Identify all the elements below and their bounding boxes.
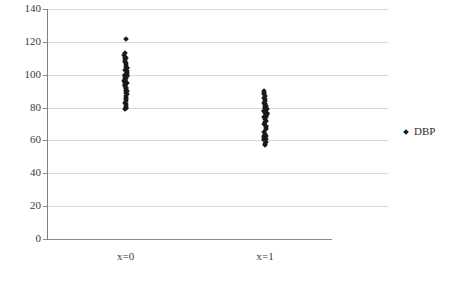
gridline-120: [48, 42, 388, 43]
y-axis-tick-label: 80: [1, 102, 41, 113]
x-axis-tick-label: x=1: [235, 251, 295, 262]
y-axis-tick-mark: [43, 239, 47, 240]
y-axis-tick-label: 20: [1, 200, 41, 211]
x-axis-line: [47, 239, 332, 240]
y-axis-tick-label: 0: [1, 233, 41, 244]
y-axis-tick-label: 120: [1, 36, 41, 47]
x-axis-tick-label: x=0: [96, 251, 156, 262]
y-axis-tick-mark: [43, 108, 47, 109]
y-axis-line: [47, 9, 48, 240]
y-axis-tick-label: 60: [1, 134, 41, 145]
gridline-40: [48, 173, 388, 174]
gridline-20: [48, 206, 388, 207]
plot-area: [48, 9, 388, 239]
y-axis-tick-mark: [43, 9, 47, 10]
y-axis-tick-mark: [43, 140, 47, 141]
y-axis-tick-mark: [43, 206, 47, 207]
scatter-chart: 140120100806040200 x=0x=1 DBP: [0, 0, 458, 283]
y-axis-tick-label: 40: [1, 167, 41, 178]
legend-label: DBP: [414, 126, 435, 137]
y-axis-labels: 140120100806040200: [0, 0, 41, 283]
y-axis-tick-label: 100: [1, 69, 41, 80]
gridline-140: [48, 9, 388, 10]
y-axis-tick-mark: [43, 75, 47, 76]
gridline-100: [48, 75, 388, 76]
chart-legend: DBP: [404, 126, 435, 137]
y-axis-tick-label: 140: [1, 3, 41, 14]
y-axis-tick-mark: [43, 42, 47, 43]
gridline-80: [48, 108, 388, 109]
y-axis-tick-mark: [43, 173, 47, 174]
gridline-60: [48, 140, 388, 141]
diamond-marker-icon: [403, 129, 409, 135]
